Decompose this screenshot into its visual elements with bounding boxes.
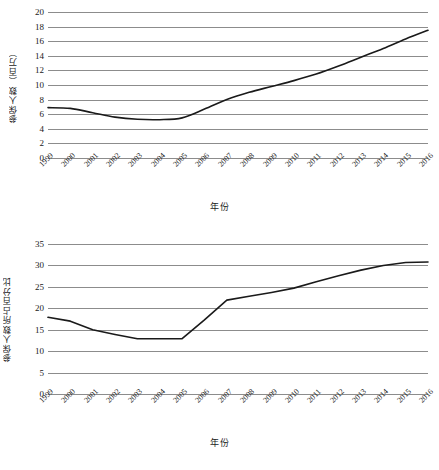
series-path bbox=[48, 30, 428, 120]
plot-area-insured-count: 参保人数（百万）02468101214161820199920002001200… bbox=[0, 0, 439, 232]
chart-insured-percentage: 参保人数所占百分比0510152025303519992000200120022… bbox=[0, 232, 439, 470]
plot-area-insured-percentage: 参保人数所占百分比0510152025303519992000200120022… bbox=[0, 232, 439, 470]
chart-insured-count: 参保人数（百万）02468101214161820199920002001200… bbox=[0, 0, 439, 232]
series-path bbox=[48, 262, 428, 339]
series-line bbox=[0, 0, 439, 232]
series-line bbox=[0, 232, 439, 470]
